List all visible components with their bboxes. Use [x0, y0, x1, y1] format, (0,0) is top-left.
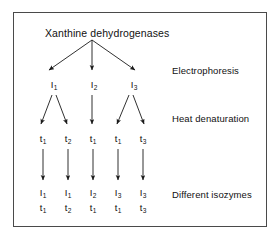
arrow-root-to-i1 — [49, 40, 92, 70]
node-electrophoresis-1: I1 — [51, 80, 57, 90]
node-isozyme-top-5: I3 — [140, 188, 146, 198]
arrow-root-to-i3 — [92, 40, 135, 70]
node-subscript: 1 — [43, 207, 47, 214]
node-isozyme-bottom-5: t3 — [140, 203, 146, 213]
node-heat-denaturation-5: t3 — [140, 134, 146, 144]
node-subscript: 2 — [94, 84, 98, 91]
node-heat-denaturation-3: t1 — [90, 134, 96, 144]
stage-label-electrophoresis: Electrophoresis — [172, 66, 239, 76]
node-subscript: 3 — [134, 84, 138, 91]
node-isozyme-top-1: I1 — [40, 188, 46, 198]
node-isozyme-bottom-3: t1 — [90, 203, 96, 213]
node-heat-denaturation-4: t1 — [115, 134, 121, 144]
arrow-i3-to-t1 — [117, 95, 129, 124]
node-subscript: 1 — [93, 207, 97, 214]
node-subscript: 1 — [118, 138, 122, 145]
node-isozyme-top-3: I2 — [90, 188, 96, 198]
node-subscript: 3 — [143, 138, 147, 145]
node-subscript: 2 — [93, 192, 97, 199]
node-isozyme-top-4: I3 — [115, 188, 121, 198]
arrow-i1-to-t1 — [41, 95, 52, 124]
page-title: Xanthine dehydrogenases — [45, 28, 169, 39]
node-electrophoresis-2: I2 — [91, 80, 97, 90]
node-subscript: 1 — [43, 138, 47, 145]
node-subscript: 3 — [118, 192, 122, 199]
node-subscript: 1 — [43, 192, 47, 199]
stage-label-different-isozymes: Different isozymes — [172, 190, 252, 200]
node-isozyme-bottom-2: t2 — [65, 203, 71, 213]
node-subscript: 2 — [68, 207, 72, 214]
arrow-i1-to-t2 — [56, 95, 67, 124]
node-isozyme-bottom-4: t1 — [115, 203, 121, 213]
stage-label-heat-denaturation: Heat denaturation — [172, 114, 249, 124]
node-subscript: 1 — [54, 84, 58, 91]
node-heat-denaturation-2: t2 — [65, 134, 71, 144]
node-subscript: 3 — [143, 192, 147, 199]
node-subscript: 1 — [93, 138, 97, 145]
node-isozyme-bottom-1: t1 — [40, 203, 46, 213]
arrow-i3-to-t3 — [133, 95, 144, 124]
node-subscript: 3 — [143, 207, 147, 214]
node-isozyme-top-2: I1 — [65, 188, 71, 198]
node-subscript: 1 — [68, 192, 72, 199]
node-subscript: 2 — [68, 138, 72, 145]
node-heat-denaturation-1: t1 — [40, 134, 46, 144]
node-electrophoresis-3: I3 — [131, 80, 137, 90]
figure-root: Xanthine dehydrogenases Electrophoresis … — [0, 0, 280, 239]
node-subscript: 1 — [118, 207, 122, 214]
